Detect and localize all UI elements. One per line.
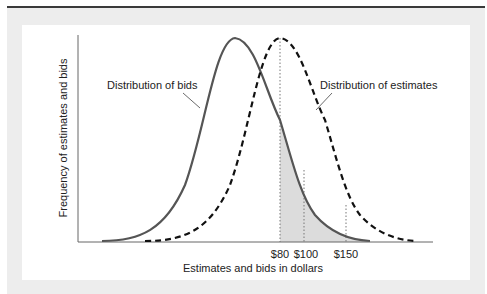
- x-tick-80: $80: [271, 248, 289, 260]
- y-axis-title: Frequency of estimates and bids: [57, 58, 69, 217]
- bids-label: Distribution of bids: [107, 79, 198, 91]
- estimates-label-pointer: [316, 93, 332, 110]
- x-tick-150: $150: [334, 248, 358, 260]
- x-axis-title: Estimates and bids in dollars: [183, 262, 324, 274]
- estimates-label: Distribution of estimates: [320, 79, 438, 91]
- chart: Distribution of bids Distribution of est…: [0, 0, 487, 294]
- bids-label-pointer: [183, 93, 200, 108]
- x-tick-100: $100: [294, 248, 318, 260]
